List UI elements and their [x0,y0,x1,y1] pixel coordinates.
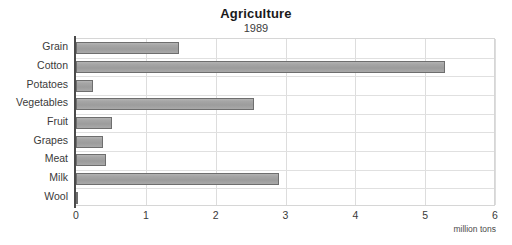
category-label-wool: Wool [0,190,68,202]
x-axis-title: million tons [380,224,496,234]
bar-row [76,132,494,151]
x-tick-label-5: 5 [410,209,440,221]
bar-row [76,76,494,95]
x-tick-label-4: 4 [340,209,370,221]
bar-row [76,39,494,58]
bar-fruit[interactable] [76,117,112,129]
chart-title: Agriculture [0,6,512,21]
plot-area [76,38,495,206]
chart-subtitle: 1989 [0,22,512,34]
bar-vegetables[interactable] [76,98,254,110]
x-tick-label-1: 1 [131,209,161,221]
x-tick-label-0: 0 [61,209,91,221]
category-label-meat: Meat [0,152,68,164]
x-tick-label-2: 2 [201,209,231,221]
category-label-potatoes: Potatoes [0,78,68,90]
bar-row [76,58,494,77]
category-label-grain: Grain [0,40,68,52]
y-axis-line [74,36,76,208]
bar-grapes[interactable] [76,136,103,148]
vertical-gridline [495,39,496,205]
bar-meat[interactable] [76,154,106,166]
bar-cotton[interactable] [76,61,445,73]
bar-potatoes[interactable] [76,80,93,92]
category-axis-labels: GrainCottonPotatoesVegetablesFruitGrapes… [0,38,72,206]
category-label-cotton: Cotton [0,59,68,71]
x-tick-label-6: 6 [480,209,510,221]
bar-row [76,170,494,189]
bar-row [76,114,494,133]
category-label-vegetables: Vegetables [0,96,68,108]
bar-wool[interactable] [76,192,78,204]
category-label-fruit: Fruit [0,115,68,127]
value-axis-labels: 0123456 [0,209,512,225]
category-label-grapes: Grapes [0,134,68,146]
bar-row [76,188,494,207]
agriculture-bar-chart: Agriculture 1989 GrainCottonPotatoesVege… [0,0,512,245]
bar-row [76,95,494,114]
bar-row [76,151,494,170]
bar-milk[interactable] [76,173,279,185]
bar-grain[interactable] [76,42,179,54]
x-tick-label-3: 3 [271,209,301,221]
category-label-milk: Milk [0,171,68,183]
